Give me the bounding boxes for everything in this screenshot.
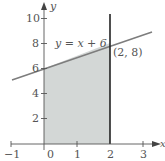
y-tick-2: 2	[32, 113, 39, 124]
y-axis-arrow-icon	[41, 2, 47, 10]
y-tick-10: 10	[26, 13, 40, 24]
x-tick-neg1: −1	[4, 149, 20, 160]
equation-label: y = x + 6	[55, 38, 107, 49]
x-tick-3: 3	[140, 149, 147, 160]
x-tick-1: 1	[74, 149, 81, 160]
x-axis-label: x	[160, 139, 165, 149]
y-tick-4: 4	[32, 88, 39, 99]
y-tick-8: 8	[32, 38, 39, 49]
y-axis-label: y	[50, 1, 56, 12]
x-tick-2: 2	[107, 149, 114, 160]
x-tick-0: 0	[47, 149, 54, 160]
chart-canvas	[0, 0, 165, 161]
y-tick-6: 6	[32, 63, 39, 74]
point-label: (2, 8)	[113, 47, 143, 58]
